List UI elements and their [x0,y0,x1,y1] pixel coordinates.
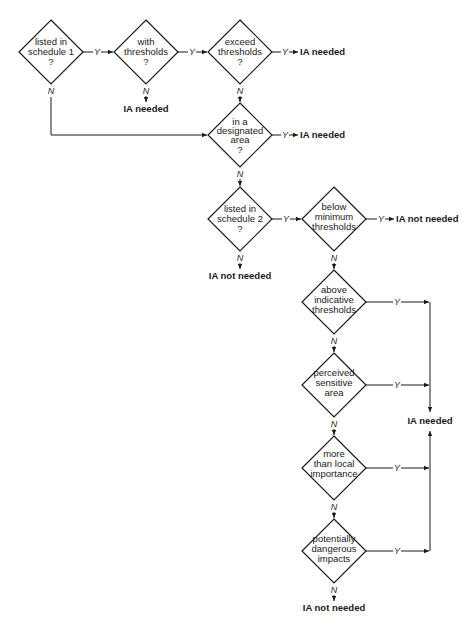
edge-label-yes: Y [283,214,290,224]
decision-below-minimum-thresholds: below minimum thresholds [302,187,366,251]
outcome-ia-needed: IA needed [123,103,168,114]
edge-label-no: N [143,86,150,96]
edge-d8-yes: Y [366,380,429,390]
edge-d9-no: N [331,502,338,518]
edge-label-yes: Y [394,380,401,390]
decision-text: ? [48,56,53,67]
decision-perceived-sensitive-area: perceived sensitive area [302,353,366,417]
decision-text: impacts [318,553,351,564]
edge-label-no: N [48,86,55,96]
edge-d3-yes: Y IA needed [272,46,345,57]
edge-d4-yes: Y IA needed [272,129,345,140]
edge-label-no: N [331,336,338,346]
outcome-ia-needed: IA needed [407,415,452,426]
decision-text: ? [237,223,242,234]
edge-d1-yes: Y [83,47,113,57]
edge-d8-no: N [331,419,338,435]
decision-more-than-local-importance: more than local importance [302,436,366,500]
decision-in-designated-area: in a designated area ? [208,103,272,167]
edge-label-yes: Y [94,47,101,57]
edge-d7-no: N [331,336,338,352]
decision-text: thresholds [312,304,356,315]
outcome-ia-needed: IA needed [300,129,345,140]
edge-label-no: N [331,502,338,512]
edge-label-yes: Y [189,47,196,57]
edge-label-yes: Y [394,297,401,307]
decision-text: thresholds [312,221,356,232]
edge-d2-no: N IA needed [123,86,168,114]
merge-connector: IA needed [407,302,452,551]
edge-label-no: N [331,253,338,263]
edge-d7-yes: Y [366,297,429,307]
edge-d9-yes: Y [366,463,429,473]
decision-listed-in-schedule-1: listed in schedule 1 ? [19,20,83,84]
decision-text: ? [237,144,242,155]
edge-label-yes: Y [378,214,385,224]
edge-d6-yes: Y IA not needed [366,213,459,224]
edge-label-no: N [331,419,338,429]
outcome-ia-needed: IA needed [300,46,345,57]
edge-d3-no: N [237,86,244,102]
edge-label-yes: Y [282,47,289,57]
edge-d10-no: N IA not needed [303,585,366,613]
edge-label-yes: Y [282,130,289,140]
decision-text: importance [311,468,358,479]
edge-label-yes: Y [394,463,401,473]
outcome-ia-not-needed: IA not needed [303,602,366,613]
outcome-ia-not-needed: IA not needed [396,213,459,224]
decision-potentially-dangerous-impacts: potentially dangerous impacts [302,519,366,583]
edge-label-no: N [331,585,338,595]
decision-exceed-thresholds: exceed thresholds ? [208,20,272,84]
edge-d10-yes: Y [366,546,429,556]
edge-d6-no: N [331,253,338,269]
edge-label-yes: Y [394,546,401,556]
outcome-ia-not-needed: IA not needed [209,270,272,281]
edge-label-no: N [237,253,244,263]
edge-d5-no: N IA not needed [209,253,272,281]
edge-label-no: N [237,86,244,96]
decision-above-indicative-thresholds: above indicative thresholds [302,270,366,334]
decision-text: area [324,387,344,398]
decision-text: ? [143,56,148,67]
decision-with-thresholds: with thresholds ? [114,20,178,84]
decision-listed-in-schedule-2: listed in schedule 2 ? [208,187,272,251]
decision-text: ? [237,56,242,67]
edge-label-no: N [237,169,244,179]
edge-d2-yes: Y [178,47,207,57]
edge-d5-yes: Y [272,214,301,224]
edge-d4-no: N [237,169,244,186]
flowchart: listed in schedule 1 ? Y N with threshol… [0,0,469,629]
